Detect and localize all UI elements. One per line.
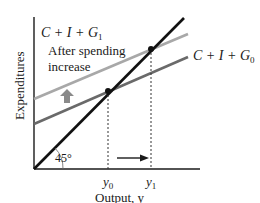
annotation-line2: increase [48, 59, 91, 74]
line-label-g0: C + I + G0 [193, 48, 255, 65]
equilibrium-point-y0 [105, 88, 111, 94]
output-shift-arrow-head-icon [140, 155, 149, 162]
y-axis-label: Expenditures [12, 51, 27, 120]
angle-label: 45° [55, 151, 72, 165]
tick-label-y1: y1 [144, 174, 156, 191]
line-label-g1: C + I + G1 [41, 25, 103, 42]
tick-label-y0: y0 [101, 174, 114, 191]
upward-shift-arrow-icon [60, 89, 74, 103]
keynesian-cross-diagram: 45° C + I + G1 After spending increase C… [0, 0, 260, 203]
annotation-line1: After spending [48, 43, 126, 58]
equilibrium-point-y1 [148, 46, 154, 52]
x-axis-label: Output, y [95, 190, 145, 203]
